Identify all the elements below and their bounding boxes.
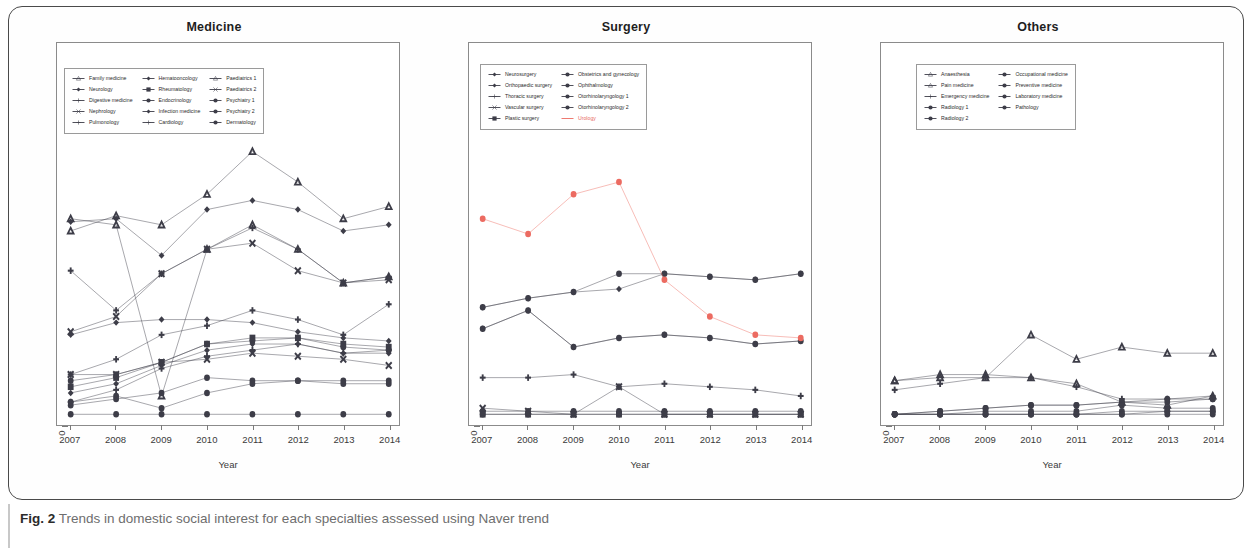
legend-entry[interactable]: Ophthalmology bbox=[561, 81, 639, 90]
legend-marker-icon bbox=[72, 85, 85, 94]
legend-entry[interactable]: Pain medicine bbox=[924, 81, 989, 90]
legend-marker-icon bbox=[488, 103, 501, 112]
legend-entry[interactable]: Paediatrics 1 bbox=[209, 74, 256, 83]
legend-entry[interactable]: Endocrinology bbox=[142, 96, 201, 105]
legend-entry[interactable]: Orthopaedic surgery bbox=[488, 81, 552, 90]
legend-entry[interactable]: Thoracic surgery bbox=[488, 92, 552, 101]
x-axis-surgery: 20072008200920102011201220132014 bbox=[468, 430, 812, 450]
x-axis-tick-label: 2013 bbox=[333, 434, 354, 445]
legend-label: Pain medicine bbox=[941, 83, 974, 88]
x-axis-tick-label: 2010 bbox=[196, 434, 217, 445]
legend-label: Family medicine bbox=[89, 76, 126, 81]
legend-label: Radiology 2 bbox=[941, 116, 968, 121]
legend-label: Occupational medicine bbox=[1015, 72, 1067, 77]
legend-entry[interactable]: Psychiatry 1 bbox=[209, 96, 256, 105]
x-axis-others: 20072008200920102011201220132014 bbox=[880, 430, 1224, 450]
legend-label: Neurosurgery bbox=[505, 72, 536, 77]
legend-marker-icon bbox=[488, 114, 501, 123]
panel-others: Others 020406080100120 AnaesthesiaPain m… bbox=[832, 6, 1244, 500]
x-axis-tick-mark bbox=[756, 425, 757, 430]
legend-marker-icon bbox=[924, 81, 937, 90]
legend-entry[interactable]: Psychiatry 2 bbox=[209, 107, 256, 116]
legend-marker-icon bbox=[561, 103, 574, 112]
figure-caption: Fig. 2 Trends in domestic social interes… bbox=[20, 510, 1170, 528]
legend-medicine: Family medicineNeurologyDigestive medici… bbox=[64, 68, 264, 134]
legend-entry[interactable]: Emergency medicine bbox=[924, 92, 989, 101]
legend-label: Preventive medicine bbox=[1015, 83, 1062, 88]
y-axis-tick-mark bbox=[886, 426, 892, 427]
legend-entry[interactable]: Laboratory medicine bbox=[998, 92, 1067, 101]
legend-entry[interactable]: Obstetrics and gynecology bbox=[561, 70, 639, 79]
legend-entry[interactable]: Otorhinolaryngology 2 bbox=[561, 103, 639, 112]
legend-marker-icon bbox=[142, 85, 155, 94]
legend-entry[interactable]: Hematooncology bbox=[142, 74, 201, 83]
legend-entry[interactable]: Nephrology bbox=[72, 107, 133, 116]
x-axis-tick-label: 2010 bbox=[608, 434, 629, 445]
legend-label: Urology bbox=[578, 116, 596, 121]
legend-label: Nephrology bbox=[89, 109, 116, 114]
legend-entry[interactable]: Cardiology bbox=[142, 118, 201, 127]
legend-entry[interactable]: Vascular surgery bbox=[488, 103, 552, 112]
legend-entry[interactable]: Digestive medicine bbox=[72, 96, 133, 105]
caption-text: Trends in domestic social interest for e… bbox=[59, 511, 549, 526]
legend-others: AnaesthesiaPain medicineEmergency medici… bbox=[916, 64, 1076, 130]
x-axis-tick-label: 2014 bbox=[1203, 434, 1224, 445]
x-axis-tick-mark bbox=[710, 425, 711, 430]
legend-label: Thoracic surgery bbox=[505, 94, 544, 99]
legend-entry[interactable]: Preventive medicine bbox=[998, 81, 1067, 90]
x-axis-tick-mark bbox=[298, 425, 299, 430]
legend-column: NeurosurgeryOrthopaedic surgeryThoracic … bbox=[488, 70, 552, 123]
legend-marker-icon bbox=[998, 92, 1011, 101]
x-axis-medicine: 20072008200920102011201220132014 bbox=[56, 430, 400, 450]
legend-label: Vascular surgery bbox=[505, 105, 544, 110]
legend-entry[interactable]: Pathology bbox=[998, 103, 1067, 112]
legend-entry[interactable]: Neurosurgery bbox=[488, 70, 552, 79]
legend-label: Hematooncology bbox=[159, 76, 198, 81]
x-axis-tick-label: 2007 bbox=[471, 434, 492, 445]
legend-entry[interactable]: Pulmonology bbox=[72, 118, 133, 127]
panel-row: Medicine 020406080100120 Family medicine… bbox=[8, 6, 1244, 500]
legend-entry[interactable]: Family medicine bbox=[72, 74, 133, 83]
legend-entry[interactable]: Infection medicine bbox=[142, 107, 201, 116]
legend-marker-icon bbox=[924, 103, 937, 112]
x-axis-tick-label: 2007 bbox=[59, 434, 80, 445]
x-axis-tick-label: 2012 bbox=[700, 434, 721, 445]
legend-entry[interactable]: Radiology 2 bbox=[924, 114, 989, 123]
legend-entry[interactable]: Otorhinolaryngology 1 bbox=[561, 92, 639, 101]
legend-marker-icon bbox=[998, 103, 1011, 112]
x-axis-tick-mark bbox=[802, 425, 803, 430]
x-axis-tick-mark bbox=[161, 425, 162, 430]
legend-label: Paediatrics 2 bbox=[226, 87, 256, 92]
x-axis-tick-label: 2014 bbox=[379, 434, 400, 445]
legend-label: Anaesthesia bbox=[941, 72, 970, 77]
x-axis-tick-mark bbox=[1122, 425, 1123, 430]
legend-marker-icon bbox=[209, 74, 222, 83]
y-axis-others: 020406080100120 bbox=[862, 42, 880, 426]
x-axis-tick-mark bbox=[344, 425, 345, 430]
legend-label: Paediatrics 1 bbox=[226, 76, 256, 81]
legend-label: Orthopaedic surgery bbox=[505, 83, 552, 88]
legend-marker-icon bbox=[561, 70, 574, 79]
x-axis-tick-mark bbox=[573, 425, 574, 430]
legend-entry[interactable]: Rheumatology bbox=[142, 85, 201, 94]
y-axis-medicine: 020406080100120 bbox=[38, 42, 56, 426]
x-axis-tick-mark bbox=[939, 425, 940, 430]
legend-column: Occupational medicinePreventive medicine… bbox=[998, 70, 1067, 123]
legend-entry[interactable]: Neurology bbox=[72, 85, 133, 94]
x-axis-tick-label: 2011 bbox=[1066, 434, 1086, 445]
legend-entry[interactable]: Paediatrics 2 bbox=[209, 85, 256, 94]
x-axis-tick-label: 2012 bbox=[288, 434, 309, 445]
x-axis-tick-mark bbox=[207, 425, 208, 430]
legend-marker-icon bbox=[561, 114, 574, 123]
legend-entry[interactable]: Urology bbox=[561, 114, 639, 123]
x-axis-tick-mark bbox=[665, 425, 666, 430]
legend-entry[interactable]: Radiology 1 bbox=[924, 103, 989, 112]
legend-column: HematooncologyRheumatologyEndocrinologyI… bbox=[142, 74, 201, 127]
legend-entry[interactable]: Occupational medicine bbox=[998, 70, 1067, 79]
legend-entry[interactable]: Anaesthesia bbox=[924, 70, 989, 79]
x-axis-tick-mark bbox=[985, 425, 986, 430]
legend-entry[interactable]: Dermatology bbox=[209, 118, 256, 127]
legend-marker-icon bbox=[142, 107, 155, 116]
figure-2-container: Medicine 020406080100120 Family medicine… bbox=[0, 0, 1253, 554]
legend-entry[interactable]: Plastic surgery bbox=[488, 114, 552, 123]
